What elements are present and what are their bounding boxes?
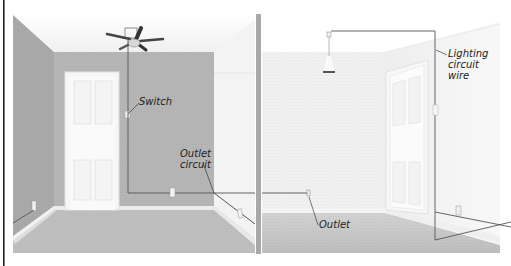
left-border <box>3 0 5 266</box>
switch-left <box>125 111 130 118</box>
label-outlet: Outlet <box>319 219 350 230</box>
left-room <box>13 14 255 253</box>
switch-right <box>433 105 438 115</box>
wiring-diagram: Switch Outlet circuit Lighting circuit w… <box>0 0 511 266</box>
outlet-back-wall <box>170 188 175 197</box>
outlet-left-wall <box>32 201 36 211</box>
label-switch: Switch <box>139 96 172 107</box>
outlet-right-room-back <box>307 190 310 196</box>
outlet-right-room-wall <box>456 206 461 215</box>
label-lighting-circuit-wire: Lighting circuit wire <box>448 48 488 81</box>
door-left <box>65 72 119 210</box>
label-outlet-circuit: Outlet circuit <box>180 148 211 170</box>
room-divider <box>256 14 261 254</box>
door-right <box>386 60 428 214</box>
